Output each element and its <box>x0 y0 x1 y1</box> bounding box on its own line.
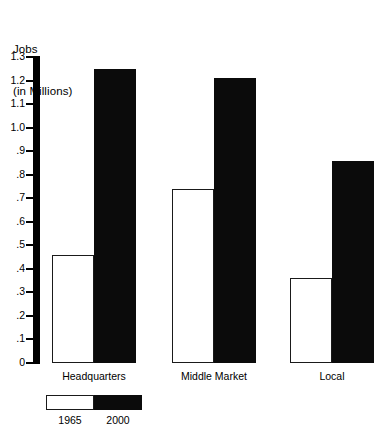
y-axis-tick-label: .9 <box>1 145 25 156</box>
y-axis-tick <box>26 150 34 152</box>
y-axis-tick-label: .3 <box>1 286 25 297</box>
bar-local-2000 <box>332 161 374 363</box>
y-axis-tick-label-wrap: .7 <box>0 192 25 203</box>
y-axis-tick-label: .1 <box>1 333 25 344</box>
y-axis-tick <box>26 127 34 129</box>
bar-middle-market-1965 <box>172 189 214 363</box>
legend-label-1965: 1965 <box>46 414 94 426</box>
y-axis-tick-label-wrap: 1.1 <box>0 98 25 109</box>
y-axis-tick-label-wrap: .5 <box>0 239 25 250</box>
y-axis-tick-label: 1.1 <box>1 98 25 109</box>
y-axis-tick-label-wrap: 1.2 <box>0 75 25 86</box>
y-axis-tick <box>26 56 34 58</box>
y-axis-tick <box>26 362 34 364</box>
y-axis-tick-label-wrap: 1.3 <box>0 51 25 62</box>
y-axis-tick <box>26 244 34 246</box>
category-label-middle-market: Middle Market <box>164 370 264 382</box>
y-axis-tick-label-wrap: .9 <box>0 145 25 156</box>
y-axis-tick-label-wrap: .1 <box>0 333 25 344</box>
y-axis-tick-label-wrap: 1.0 <box>0 122 25 133</box>
y-axis-tick-label: 0 <box>1 357 25 368</box>
y-axis-tick-label-wrap: .3 <box>0 286 25 297</box>
legend: 1965 2000 <box>46 395 246 431</box>
category-label-headquarters: Headquarters <box>44 370 144 382</box>
y-axis-tick <box>26 338 34 340</box>
bar-headquarters-2000 <box>94 69 136 363</box>
y-axis-tick-label: .7 <box>1 192 25 203</box>
y-axis-tick-label: 1.2 <box>1 75 25 86</box>
y-axis-tick <box>26 291 34 293</box>
y-axis-tick-label: .2 <box>1 310 25 321</box>
bar-middle-market-2000 <box>214 78 256 363</box>
bar-local-1965 <box>290 278 332 363</box>
y-axis-tick-label-wrap: .4 <box>0 263 25 274</box>
y-axis-tick-label: .5 <box>1 239 25 250</box>
y-axis-tick-label: 1.0 <box>1 122 25 133</box>
bar-headquarters-1965 <box>52 255 94 363</box>
legend-label-2000: 2000 <box>94 414 142 426</box>
y-axis-tick <box>26 174 34 176</box>
y-axis-tick-label-wrap: 0 <box>0 357 25 368</box>
y-axis-tick-label: .4 <box>1 263 25 274</box>
category-label-local: Local <box>282 370 378 382</box>
y-axis-tick <box>26 197 34 199</box>
y-axis-tick <box>26 80 34 82</box>
y-axis-tick <box>26 268 34 270</box>
legend-swatch-1965 <box>46 395 94 410</box>
y-axis-tick-label-wrap: .2 <box>0 310 25 321</box>
y-axis-tick <box>26 315 34 317</box>
y-axis-tick <box>26 103 34 105</box>
y-axis <box>33 56 40 364</box>
y-axis-tick-label: 1.3 <box>1 51 25 62</box>
y-axis-tick <box>26 221 34 223</box>
y-axis-tick-label-wrap: .6 <box>0 216 25 227</box>
y-axis-tick-label: .8 <box>1 169 25 180</box>
y-axis-tick-label: .6 <box>1 216 25 227</box>
legend-swatch-2000 <box>94 395 142 410</box>
y-axis-tick-label-wrap: .8 <box>0 169 25 180</box>
